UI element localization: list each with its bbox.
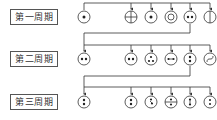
- symbol-cross-circle-icon: [125, 11, 137, 23]
- symbol-dots-vertical-arrow-icon: [184, 96, 196, 108]
- flow-diagram: [0, 0, 217, 120]
- row-2-symbols: [78, 53, 216, 65]
- symbol-vertical-line-icon: [204, 11, 216, 23]
- symbol-s-curve-icon: [204, 53, 216, 65]
- symbol-two-dots-vertical-icon: [78, 96, 90, 108]
- row-1-symbols: [78, 11, 216, 23]
- symbol-two-dots-vertical-icon: [125, 96, 137, 108]
- row-1-connectors: [84, 3, 210, 10]
- symbol-three-dots-triangle-icon: [145, 53, 157, 65]
- symbol-two-dots-vertical-small-icon: [204, 96, 216, 108]
- symbol-double-circle-icon: [165, 11, 177, 23]
- symbol-two-dots-vertical-icon: [184, 53, 196, 65]
- symbol-dot-center-icon: [78, 11, 90, 23]
- symbol-dots-with-tail-icon: [145, 96, 157, 108]
- symbol-dots-with-dash-icon: [165, 53, 177, 65]
- row-3-symbols: [78, 96, 216, 108]
- link-2-3: [84, 66, 190, 94]
- row-3-connectors: [84, 87, 210, 94]
- symbol-dots-with-bar-icon: [165, 96, 177, 108]
- row-2-connectors: [84, 45, 210, 51]
- symbol-two-dots-horizontal-icon: [125, 53, 137, 65]
- symbol-two-dots-horizontal-icon: [184, 11, 196, 23]
- symbol-dot-center-icon: [145, 11, 157, 23]
- link-1-2: [84, 24, 190, 51]
- symbol-two-dots-horizontal-icon: [78, 53, 90, 65]
